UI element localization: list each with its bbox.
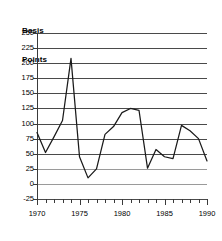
x-tick-mark-1972 (54, 199, 55, 203)
x-tick-label-1990: 1990 (199, 210, 216, 218)
x-tick-mark-1976 (88, 199, 89, 203)
chart-container: Basis Points 250225200175150125100755025… (0, 0, 222, 241)
x-axis-labels: 19701975198019851990 (0, 210, 222, 222)
x-tick-mark-1989 (199, 199, 200, 203)
y-tick-mark--25 (33, 199, 38, 200)
y-tick-mark-200 (33, 63, 38, 64)
y-tick-mark-250 (33, 33, 38, 34)
y-tick-mark-50 (33, 154, 38, 155)
x-tick-mark-1985 (165, 199, 166, 205)
x-tick-mark-1988 (190, 199, 191, 203)
y-tick-mark-175 (33, 78, 38, 79)
series-path-basis-points (37, 58, 207, 178)
x-tick-mark-1975 (80, 199, 81, 205)
x-tick-mark-1981 (131, 199, 132, 203)
x-tick-mark-1983 (148, 199, 149, 203)
x-tick-mark-1978 (105, 199, 106, 203)
y-axis-labels: 2502252001751501251007550250-25 (0, 0, 34, 241)
data-series-line (37, 33, 207, 199)
x-axis-ticks (37, 199, 208, 207)
x-tick-mark-1974 (71, 199, 72, 203)
x-tick-label-1975: 1975 (71, 210, 88, 218)
x-tick-mark-1984 (156, 199, 157, 203)
y-tick-mark-150 (33, 93, 38, 94)
x-tick-mark-1980 (122, 199, 123, 205)
x-tick-label-1970: 1970 (29, 210, 46, 218)
x-tick-mark-1986 (173, 199, 174, 203)
x-tick-mark-1982 (139, 199, 140, 203)
x-tick-mark-1971 (46, 199, 47, 203)
y-tick-mark-100 (33, 124, 38, 125)
x-tick-mark-1987 (182, 199, 183, 203)
x-tick-mark-1979 (114, 199, 115, 203)
x-tick-label-1980: 1980 (114, 210, 131, 218)
x-tick-label-1985: 1985 (156, 210, 173, 218)
y-tick-mark-125 (33, 108, 38, 109)
x-tick-mark-1973 (63, 199, 64, 203)
x-tick-mark-1977 (97, 199, 98, 203)
y-tick-mark-225 (33, 48, 38, 49)
x-tick-mark-1990 (207, 199, 208, 205)
y-tick-mark-75 (33, 139, 38, 140)
y-tick-mark-25 (33, 169, 38, 170)
y-tick-mark-0 (33, 184, 38, 185)
